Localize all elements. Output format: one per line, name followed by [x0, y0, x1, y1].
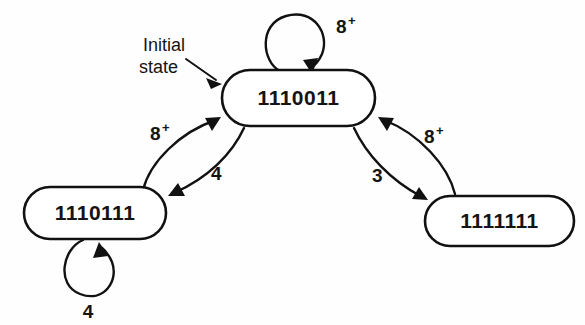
transition-top-to-left-label: 4	[211, 163, 222, 184]
initial-state-pointer-line	[186, 59, 216, 80]
self-loop-top-state	[266, 15, 324, 74]
state-node-top-label: 1110011	[258, 86, 340, 109]
transition-top-to-left-label-group: 4	[211, 163, 222, 184]
state-node-left[interactable]: 1110111	[24, 187, 166, 239]
self-loop-left-state	[64, 240, 113, 296]
state-node-right-label: 1111111	[460, 209, 538, 232]
self-loop-top-state-label-group: 8 +	[336, 13, 356, 37]
self-loop-left-state-path	[64, 240, 113, 296]
state-node-left-label: 1110111	[55, 201, 136, 224]
self-loop-top-state-label: 8	[336, 16, 347, 37]
transition-top-to-left-path	[174, 128, 244, 193]
transition-right-to-top-label-superscript: +	[436, 123, 444, 138]
state-diagram-svg: 1110011 1110111 1111111 8 + 4 8 + 4	[0, 0, 585, 325]
transition-left-to-top-label-group: 8 +	[150, 120, 170, 144]
initial-state-annotation-line1: Initial	[143, 35, 185, 55]
transition-left-to-top-label-superscript: +	[162, 120, 170, 135]
state-node-top[interactable]: 1110011	[222, 70, 375, 126]
initial-state-annotation: Initial state	[139, 35, 185, 77]
initial-state-pointer-arrow	[186, 59, 222, 89]
transition-top-to-right-path	[354, 128, 422, 197]
initial-state-annotation-line2: state	[139, 57, 178, 77]
state-node-right[interactable]: 1111111	[425, 196, 574, 246]
self-loop-top-state-label-superscript: +	[348, 13, 356, 28]
transition-right-to-top-label: 8	[424, 126, 435, 147]
transition-right-to-top-path	[384, 120, 455, 194]
state-diagram-canvas: 1110011 1110111 1111111 8 + 4 8 + 4	[0, 0, 585, 325]
transition-right-to-top-label-group: 8 +	[424, 123, 444, 147]
transition-top-to-right-label-group: 3	[372, 165, 383, 186]
transition-left-to-top-label: 8	[150, 123, 161, 144]
self-loop-left-state-label: 4	[83, 301, 94, 322]
transition-top-to-right-label: 3	[372, 165, 383, 186]
self-loop-left-state-label-group: 4	[83, 301, 94, 322]
